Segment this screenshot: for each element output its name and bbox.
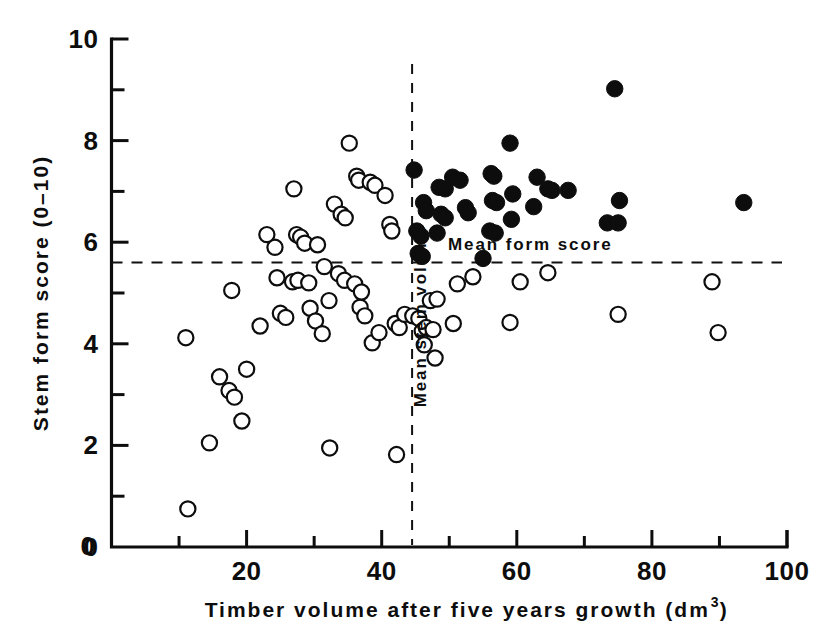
data-point-filled [460,205,476,221]
data-point-open [317,259,332,274]
data-point-filled [611,192,627,208]
data-point-filled [503,211,519,227]
data-point-filled [486,168,502,184]
data-point-open [310,237,325,252]
data-point-open [465,269,480,284]
data-point-open [450,276,465,291]
x-axis-title: Timber volume after five years growth (d… [205,598,710,621]
x-tick-label: 20 [232,556,262,586]
data-point-filled [505,186,521,202]
y-tick-label: 4 [84,329,99,359]
data-point-filled [607,81,623,97]
data-point-open [704,274,719,289]
data-point-open [278,310,293,325]
mean-form-score-label: Mean form score [448,235,613,254]
y-tick-label: 6 [84,227,99,257]
x-tick-label: 80 [637,556,667,586]
data-point-open [315,326,330,341]
data-point-open [371,325,386,340]
data-point-open [234,413,249,428]
data-point-filled [452,172,468,188]
data-point-open [354,284,369,299]
data-point-open [377,188,392,203]
data-point-open [540,265,555,280]
data-point-open [502,315,517,330]
mean-stem-volume-label: Mean stem volume [411,225,430,408]
data-point-filled [525,198,541,214]
y-tick-label: 8 [84,126,99,156]
x-tick-label: 100 [765,556,810,586]
y-tick-label: 10 [69,24,99,54]
data-point-filled [544,182,560,198]
x-tick-label: 40 [367,556,397,586]
data-point-filled [406,162,422,178]
data-point-open [429,292,444,307]
data-point-filled [418,203,434,219]
data-point-open [180,501,195,516]
data-point-open [389,447,404,462]
data-point-filled [429,225,445,241]
data-point-open [224,283,239,298]
data-point-open [227,390,242,405]
data-point-filled [437,210,453,226]
data-point-open [321,293,336,308]
data-point-filled [488,194,504,210]
plot-canvas: 0204060801000246810Mean form scoreMean s… [0,0,837,636]
scatter-plot-figure: 0204060801000246810Mean form scoreMean s… [0,0,837,636]
data-point-open [342,136,357,151]
data-point-open [202,435,217,450]
data-point-filled [736,194,752,210]
axis-frame [112,39,788,547]
data-point-filled [560,182,576,198]
data-point-open [269,270,284,285]
data-point-open [384,223,399,238]
data-point-open [446,316,461,331]
data-point-filled [610,215,626,231]
data-point-open [239,362,254,377]
y-axis-title: Stem form score (0–10) [29,155,52,431]
data-point-open [212,369,227,384]
data-point-open [357,308,372,323]
x-tick-label: 60 [502,556,532,586]
data-point-open [178,330,193,345]
y-tick-label: 0 [84,532,99,562]
data-point-open [611,307,626,322]
y-tick-label: 2 [84,430,99,460]
data-point-open [338,210,353,225]
data-point-open [513,274,528,289]
data-point-open [267,240,282,255]
data-point-open [711,325,726,340]
data-point-open [253,318,268,333]
data-point-open [322,440,337,455]
x-axis-title-superscript: 3 [711,594,719,610]
data-point-open [301,275,316,290]
x-axis-title-tail: ) [720,598,729,621]
data-point-filled [502,135,518,151]
data-point-open [286,181,301,196]
